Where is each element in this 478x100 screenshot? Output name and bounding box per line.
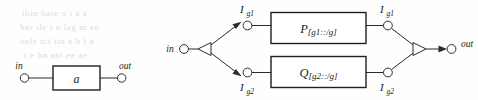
fork-splitter-triangle[interactable] xyxy=(198,43,211,56)
branch-2-input-signal-node[interactable] xyxy=(243,68,252,77)
simple-output-port-node[interactable] xyxy=(118,74,126,82)
simple-process-box-label: a xyxy=(74,72,80,86)
join-upper-branch-wire xyxy=(392,29,413,45)
simple-process-diagram: in a out xyxy=(15,61,131,91)
join-merger-triangle[interactable] xyxy=(413,43,426,56)
branch-2-output-signal-label: I xyxy=(379,81,385,93)
branch-1-input-signal-node[interactable] xyxy=(243,21,252,30)
join-output-arrow-icon xyxy=(439,46,448,53)
fork-input-port-label: in xyxy=(166,44,174,54)
fork-upper-branch-wire xyxy=(211,26,237,46)
branch-2-input-signal-sublabel: g2 xyxy=(247,87,255,96)
branch-2-box-label-sub: [g2::/g] xyxy=(309,71,338,81)
fork-lower-branch-wire xyxy=(211,53,237,73)
branch-1-box-label-sub: [g1::/g] xyxy=(308,27,337,37)
branch-1-output-signal-node[interactable] xyxy=(384,21,393,30)
fork-join-process-diagram: in I g1 P[g1::/g] xyxy=(166,3,473,96)
join-lower-branch-wire xyxy=(392,53,413,69)
branch-2-output-signal-node[interactable] xyxy=(384,68,393,77)
simple-input-port-node[interactable] xyxy=(20,74,28,82)
figure-page: thin hate o t a a har ile i o lag m an o… xyxy=(0,0,478,100)
branch-2-input-signal-label: I xyxy=(239,81,245,93)
fork-input-port-node[interactable] xyxy=(180,45,189,54)
fork-output-port-label: out xyxy=(461,39,474,49)
branch-1-input-signal-label: I xyxy=(239,3,245,15)
process-diagrams-svg: in a out in xyxy=(0,0,478,100)
branch-2-box-label-main: Q xyxy=(299,66,308,80)
branch-2-output-signal-sublabel: g2 xyxy=(387,87,395,96)
branch-1-output-signal-label: I xyxy=(379,3,385,15)
simple-output-port-label: out xyxy=(119,61,132,71)
branch-1-output-signal-sublabel: g1 xyxy=(387,9,395,18)
branch-1-input-signal-sublabel: g1 xyxy=(247,9,255,18)
simple-input-port-label: in xyxy=(15,61,23,71)
fork-output-port-node[interactable] xyxy=(447,45,456,54)
